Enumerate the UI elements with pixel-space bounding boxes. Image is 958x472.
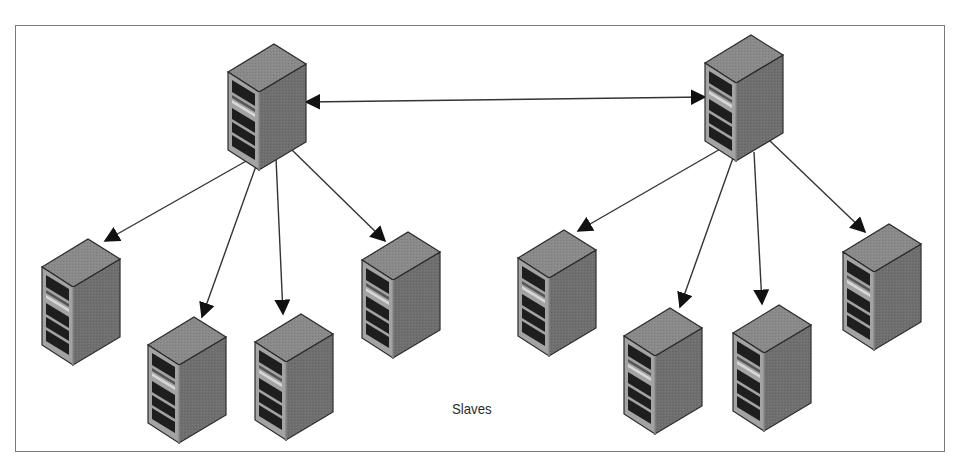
master-server-icon	[228, 44, 306, 170]
slave-server-icon	[362, 232, 440, 358]
slave-server-icon	[518, 230, 596, 356]
arrow-master-left-to-slave-4	[292, 150, 385, 241]
arrow-master-left-to-slave-1	[105, 160, 248, 241]
slave-server-icon	[624, 308, 702, 434]
slave-server-icon	[255, 314, 333, 440]
arrow-master-right-to-slave-6	[680, 158, 733, 307]
slave-server-icon	[42, 239, 120, 365]
arrow-master-right-to-slave-7	[754, 152, 762, 304]
arrow-master-left-to-slave-2	[202, 166, 256, 317]
slave-server-icon	[843, 224, 921, 350]
arrow-master-right-to-slave-5	[578, 148, 722, 231]
slaves-label: Slaves	[452, 400, 492, 417]
server-nodes	[42, 35, 921, 443]
arrow-master-left-to-slave-3	[276, 158, 283, 314]
arrow-master-right-to-slave-8	[769, 140, 865, 232]
arrow-master-left-to-master-right	[306, 97, 705, 102]
slave-server-icon	[733, 305, 811, 431]
slave-server-icon	[148, 317, 226, 443]
